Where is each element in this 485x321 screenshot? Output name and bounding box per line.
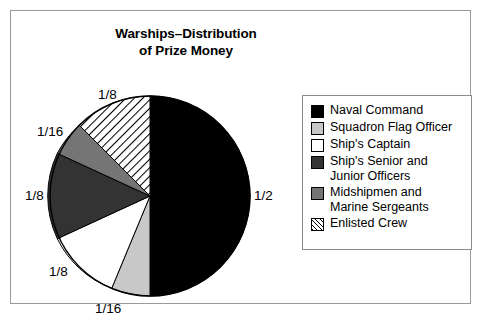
pie-label-squadron-flag-officer: 1/16 xyxy=(95,302,121,316)
dark-gray-swatch-icon xyxy=(311,156,324,169)
legend-item-squadron-flag-officer: Squadron Flag Officer xyxy=(311,120,471,136)
legend: Naval Command Squadron Flag Officer Ship… xyxy=(302,95,472,250)
pie-label-midshipmen-marine-sergeants: 1/16 xyxy=(37,125,63,139)
page-title: Warships–Distribution of Prize Money xyxy=(71,25,301,59)
pie-slice-naval-command xyxy=(150,96,250,296)
pie-label-naval-command: 1/2 xyxy=(254,189,273,203)
pie-label-ships-captain: 1/8 xyxy=(49,265,68,279)
legend-label: Enlisted Crew xyxy=(330,216,407,231)
legend-item-naval-command: Naval Command xyxy=(311,103,471,119)
legend-label: Squadron Flag Officer xyxy=(330,120,452,135)
pie-label-ships-senior-junior-officers: 1/8 xyxy=(25,189,44,203)
legend-item-enlisted-crew: Enlisted Crew xyxy=(311,216,471,232)
legend-label: Ship's Senior and Junior Officers xyxy=(330,154,428,184)
black-swatch-icon xyxy=(311,105,324,118)
pie-label-enlisted-crew: 1/8 xyxy=(98,88,117,102)
legend-item-ships-senior-junior-officers: Ship's Senior and Junior Officers xyxy=(311,154,471,184)
light-gray-swatch-icon xyxy=(311,122,324,135)
medium-gray-swatch-icon xyxy=(311,187,324,200)
pie-chart: 1/2 1/16 1/8 1/8 1/16 1/8 xyxy=(25,71,295,321)
legend-item-midshipmen-marine-sergeants: Midshipmen and Marine Sergeants xyxy=(311,185,471,215)
white-swatch-icon xyxy=(311,139,324,152)
legend-label: Ship's Captain xyxy=(330,137,410,152)
legend-label: Naval Command xyxy=(330,103,423,118)
legend-label: Midshipmen and Marine Sergeants xyxy=(330,185,429,215)
figure-canvas: Warships–Distribution of Prize Money xyxy=(0,0,485,321)
legend-item-ships-captain: Ship's Captain xyxy=(311,137,471,153)
chart-frame: Warships–Distribution of Prize Money xyxy=(10,10,471,304)
hatch-swatch-icon xyxy=(311,218,324,231)
